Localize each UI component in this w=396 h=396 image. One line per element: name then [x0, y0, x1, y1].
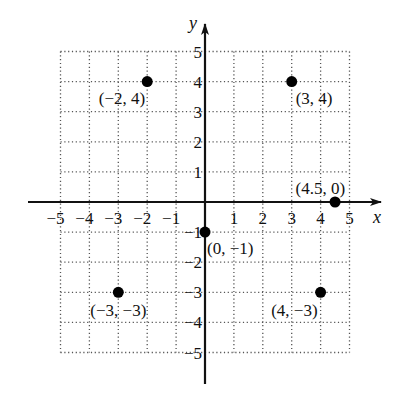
x-tick-label: −5	[46, 209, 64, 228]
x-axis-label: x	[372, 207, 381, 227]
x-tick-label: 2	[259, 209, 268, 228]
y-tick-label: −1	[184, 223, 202, 242]
y-tick-label: −4	[184, 313, 203, 332]
y-tick-label: 1	[194, 163, 203, 182]
y-tick-label: 3	[194, 103, 203, 122]
data-point	[315, 287, 326, 298]
x-tick-label: −2	[133, 209, 151, 228]
data-point	[286, 76, 297, 87]
y-tick-label: −3	[184, 283, 202, 302]
x-tick-label: 4	[316, 209, 325, 228]
data-points: (−2, 4)(3, 4)(4.5, 0)(0, −1)(−3, −3)(4, …	[90, 76, 345, 320]
y-tick-label: 4	[194, 73, 203, 92]
x-tick-label: −3	[104, 209, 122, 228]
y-tick-label: 5	[194, 43, 203, 62]
data-point	[200, 227, 211, 238]
point-label: (4.5, 0)	[295, 179, 345, 198]
x-tick-label: 3	[287, 209, 296, 228]
data-point	[142, 76, 153, 87]
y-tick-label: −2	[184, 253, 202, 272]
point-label: (0, −1)	[207, 239, 253, 258]
x-tick-label: −4	[75, 209, 94, 228]
x-tick-label: 5	[345, 209, 354, 228]
point-label: (−2, 4)	[99, 89, 145, 108]
x-tick-label: −1	[162, 209, 180, 228]
point-label: (−3, −3)	[90, 301, 146, 320]
coordinate-plane: x y −5−4−3−2−112345 54321−1−2−3−4−5 (−2,…	[0, 0, 396, 396]
data-point	[113, 287, 124, 298]
x-tick-label: 1	[230, 209, 239, 228]
point-label: (3, 4)	[296, 89, 333, 108]
y-axis-label: y	[187, 13, 197, 33]
y-tick-label: 2	[194, 133, 203, 152]
data-point	[330, 197, 341, 208]
point-label: (4, −3)	[271, 301, 317, 320]
y-tick-label: −5	[184, 344, 202, 363]
